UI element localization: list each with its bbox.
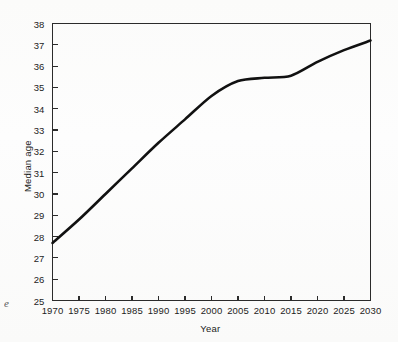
data-series-line <box>53 41 371 243</box>
x-axis-tick-label: 2000 <box>201 305 223 316</box>
y-axis-tick-label: 35 <box>0 82 45 93</box>
y-axis-tick-label: 27 <box>0 252 45 263</box>
x-axis-tick-label: 2005 <box>227 305 249 316</box>
x-axis-tick-label: 1970 <box>42 305 64 316</box>
y-axis-tick-label: 38 <box>0 18 45 29</box>
x-axis-tick-label: 1995 <box>174 305 196 316</box>
x-axis-tick-label: 2020 <box>307 305 329 316</box>
y-axis-tick-label: 37 <box>0 39 45 50</box>
y-axis-tick-label: 36 <box>0 61 45 72</box>
y-axis-tick-label: 29 <box>0 210 45 221</box>
axis-frame <box>53 24 371 301</box>
x-axis-tick-label: 1975 <box>68 305 90 316</box>
y-axis-tick-label: 26 <box>0 274 45 285</box>
y-axis-tick-label: 28 <box>0 231 45 242</box>
x-axis-tick-label: 1980 <box>95 305 117 316</box>
x-axis-tick-label: 2010 <box>254 305 276 316</box>
x-axis-tick-label: 1990 <box>148 305 170 316</box>
x-axis-tick-label: 2015 <box>280 305 302 316</box>
x-axis-tick-label: 2030 <box>360 305 382 316</box>
line-chart-plot <box>0 0 398 342</box>
x-axis-title: Year <box>0 323 398 334</box>
figure-container: 2526272829303132333435363738197019751980… <box>0 0 398 342</box>
caption-fragment-text: e <box>4 296 13 310</box>
y-axis-tick-label: 33 <box>0 125 45 136</box>
x-axis-tick-label: 2025 <box>333 305 355 316</box>
y-axis-title: Median age <box>22 140 33 192</box>
y-axis-tick-label: 34 <box>0 103 45 114</box>
x-axis-tick-label: 1985 <box>121 305 143 316</box>
